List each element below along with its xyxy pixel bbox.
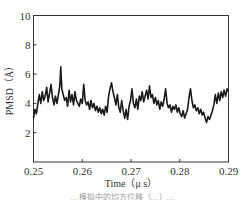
y-tick-label: 8 [25, 39, 31, 51]
plot-frame [34, 16, 229, 163]
figure-caption: …模拟中的均方位移（…）… [0, 191, 245, 200]
y-tick-label: 10 [20, 10, 32, 22]
x-tick-label: 0.26 [73, 165, 93, 177]
x-tick-label: 0.27 [121, 165, 141, 177]
pmsd-series-line [34, 67, 229, 123]
y-axis-title: PMSD（Å） [4, 61, 15, 115]
x-axis-title: Time（μ s） [105, 178, 158, 189]
x-tick-label: 0.29 [219, 165, 239, 177]
y-tick-label: 6 [25, 68, 31, 80]
x-tick-label: 0.28 [170, 165, 190, 177]
pmsd-line-chart: 246810 0.250.260.270.280.29 PMSD（Å） Time… [0, 0, 245, 192]
x-tick-label: 0.25 [24, 165, 44, 177]
y-tick-label: 2 [25, 127, 31, 139]
y-tick-label: 4 [25, 97, 31, 109]
